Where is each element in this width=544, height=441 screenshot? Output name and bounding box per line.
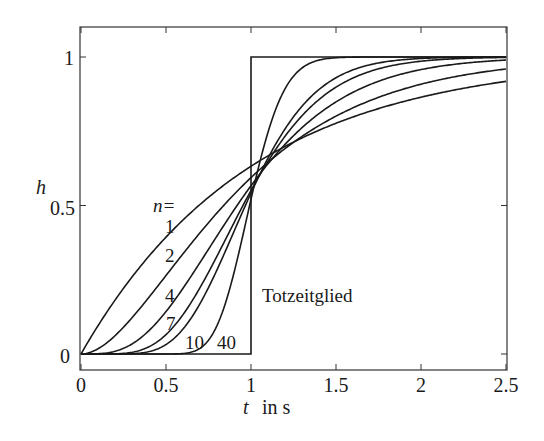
- xtick-2.5: 2.5: [494, 374, 519, 396]
- curve-n-2: [81, 69, 506, 354]
- ytick-1: 1: [64, 47, 74, 69]
- curve-totzeitglied: [81, 57, 506, 354]
- step-response-chart: 0 0.5 1 0 0.5 1 1.5 2 2.5 h t in s n= 1 …: [0, 0, 544, 441]
- label-n4: 4: [165, 285, 175, 306]
- ytick-0.5: 0.5: [50, 197, 75, 219]
- curve-n-10: [81, 57, 506, 354]
- label-n10: 10: [185, 332, 204, 353]
- curve-n-1: [81, 81, 506, 354]
- label-n40: 40: [217, 332, 236, 353]
- ytick-0: 0: [60, 345, 70, 367]
- xtick-2: 2: [416, 374, 426, 396]
- xtick-0.5: 0.5: [154, 374, 179, 396]
- x-axis-label-unit: in s: [262, 396, 291, 418]
- xtick-1: 1: [246, 374, 256, 396]
- xtick-0: 0: [76, 374, 86, 396]
- y-axis-label: h: [36, 176, 46, 198]
- curve-n-40: [81, 57, 506, 354]
- label-deadtime: Totzeitglied: [262, 285, 353, 306]
- curves: [81, 57, 506, 354]
- n-equals-label: n=: [153, 195, 175, 216]
- curve-n-7: [81, 57, 506, 354]
- xtick-1.5: 1.5: [324, 374, 349, 396]
- label-n1: 1: [165, 216, 175, 237]
- curve-n-4: [81, 60, 506, 354]
- label-n2: 2: [165, 245, 175, 266]
- label-n7: 7: [166, 313, 176, 334]
- x-axis-label-var: t: [243, 396, 249, 418]
